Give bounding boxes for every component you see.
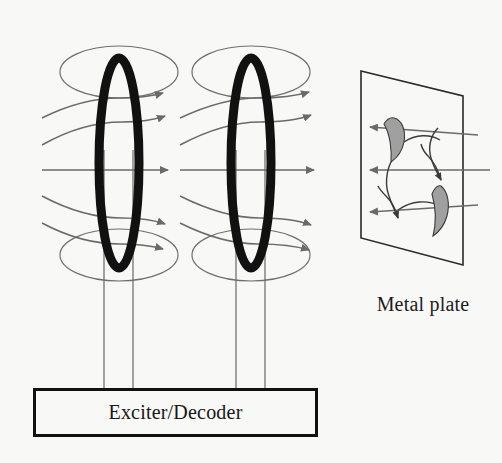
figure-canvas: Metal plate Exciter/Decoder [0, 0, 502, 463]
metal-plate [361, 71, 463, 265]
exciter-decoder-label: Exciter/Decoder [108, 401, 242, 424]
metal-plate-label: Metal plate [348, 293, 498, 316]
exciter-decoder-box: Exciter/Decoder [33, 388, 318, 437]
